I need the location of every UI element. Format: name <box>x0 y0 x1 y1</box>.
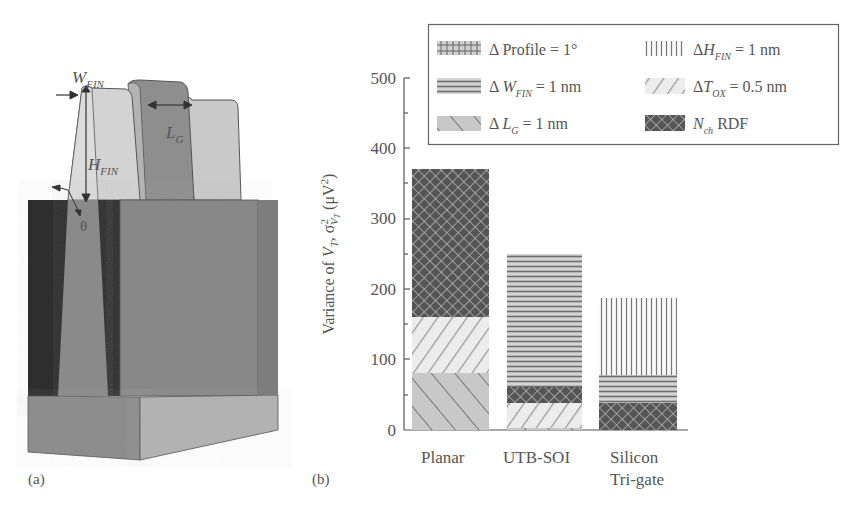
segment-rdf <box>599 403 677 430</box>
xtick-silicon: Silicon <box>610 448 659 467</box>
segment-tox <box>507 403 582 428</box>
legend: Δ Profile = 1° ΔHFIN = 1 nm Δ WFIN = 1 n… <box>429 25 839 145</box>
bar-planar <box>412 169 489 430</box>
ytick-500: 500 <box>371 69 397 88</box>
substrate-side <box>120 200 258 396</box>
segment-rdf <box>412 169 489 317</box>
ytick-200: 200 <box>371 280 397 299</box>
legend-swatch-lg <box>437 116 481 131</box>
bar-tri-gate <box>599 298 677 430</box>
ytick-0: 0 <box>388 421 397 440</box>
legend-swatch-wfin <box>437 78 481 94</box>
segment-wfin <box>599 375 677 403</box>
fin-block-back <box>186 96 241 200</box>
y-axis-label: Variance of VT, σ2VT (μV2) <box>318 174 342 335</box>
ytick-300: 300 <box>371 209 397 228</box>
theta-label: θ <box>80 218 87 234</box>
finfet-diagram: WFIN HFIN LG θ <box>28 68 278 460</box>
substrate-edge <box>258 200 278 396</box>
xtick-utb-soi: UTB-SOI <box>503 448 570 467</box>
legend-label-profile: Δ Profile = 1° <box>489 41 577 58</box>
figure: WFIN HFIN LG θ (a) (b) Variance of VT, σ… <box>0 0 868 522</box>
legend-swatch-rdf <box>645 115 685 131</box>
xtick-tri-gate: Tri-gate <box>610 470 664 489</box>
segment-hfin <box>599 298 677 375</box>
base-side <box>140 395 278 460</box>
segment-wfin <box>507 254 582 387</box>
legend-swatch-tox <box>645 78 685 94</box>
base-front <box>28 396 140 460</box>
legend-swatch-hfin <box>645 41 685 56</box>
ytick-400: 400 <box>371 139 397 158</box>
bar-utb-soi <box>507 254 582 430</box>
segment-lg <box>412 373 489 430</box>
xtick-planar: Planar <box>421 448 465 467</box>
panel-a-label: (a) <box>28 471 45 488</box>
segment-tox <box>412 317 489 373</box>
panel-b-label: (b) <box>312 471 330 488</box>
wfin-label: WFIN <box>72 68 105 90</box>
segment-rdf <box>507 387 582 403</box>
segment-lg <box>507 428 582 430</box>
legend-swatch-profile <box>437 41 481 55</box>
ytick-100: 100 <box>371 350 397 369</box>
x-tick-labels: Planar UTB-SOI Silicon Tri-gate <box>421 448 664 489</box>
y-tick-labels: 0 100 200 300 400 500 <box>371 69 397 440</box>
